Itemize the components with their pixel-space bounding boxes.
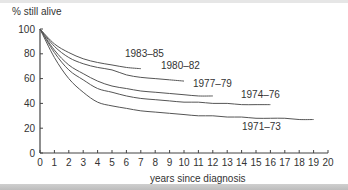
axes: 0204060801000123456789101112131415161718… [18, 24, 334, 169]
series-line [40, 29, 314, 120]
series-label-1980-82: 1980–82 [161, 60, 200, 71]
x-tick-label: 8 [152, 157, 158, 168]
x-tick-label: 9 [167, 157, 173, 168]
x-tick-label: 3 [80, 157, 86, 168]
x-tick-label: 18 [294, 157, 306, 168]
x-tick-label: 1 [52, 157, 58, 168]
series-lines [40, 29, 314, 120]
series-line [40, 29, 270, 105]
x-tick-label: 19 [308, 157, 320, 168]
series-label-1971-73: 1971–73 [242, 121, 281, 132]
y-tick-label: 20 [24, 123, 36, 134]
x-tick-label: 17 [279, 157, 291, 168]
x-tick-label: 11 [193, 157, 204, 168]
x-tick-label: 5 [109, 157, 115, 168]
x-tick-label: 6 [124, 157, 130, 168]
survival-chart: % still alive 02040608010001234567891011… [0, 0, 348, 190]
y-tick-label: 100 [18, 24, 35, 35]
x-tick-label: 20 [322, 157, 334, 168]
x-tick-label: 16 [265, 157, 277, 168]
y-tick-label: 80 [24, 48, 36, 59]
x-tick-label: 14 [236, 157, 248, 168]
y-axis-label: % still alive [12, 6, 62, 17]
y-tick-label: 60 [24, 73, 36, 84]
y-tick-label: 40 [24, 98, 36, 109]
x-tick-label: 10 [178, 157, 190, 168]
y-tick-label: 0 [29, 148, 35, 159]
x-tick-label: 13 [222, 157, 234, 168]
x-tick-label: 12 [207, 157, 219, 168]
x-tick-label: 4 [95, 157, 101, 168]
series-label-1974-76: 1974–76 [241, 89, 280, 100]
bottom-border [0, 184, 348, 190]
x-tick-label: 0 [37, 157, 43, 168]
x-tick-label: 2 [66, 157, 72, 168]
x-axis-label: years since diagnosis [150, 173, 246, 184]
series-label-1983-85: 1983–85 [125, 48, 164, 59]
x-tick-label: 7 [138, 157, 144, 168]
series-label-1977-79: 1977–79 [193, 78, 232, 89]
x-tick-label: 15 [250, 157, 262, 168]
